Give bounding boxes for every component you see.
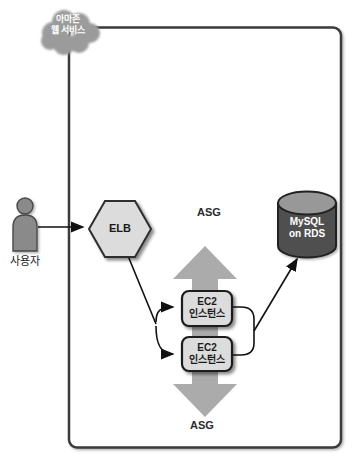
ec2-label-2-line1: EC2 bbox=[182, 342, 232, 354]
rds-label-line2: on RDS bbox=[277, 228, 337, 240]
aws-architecture-diagram: 아마존 웹 서비스 사용자 ELB ASG ASG EC2 인스턴스 EC2 인… bbox=[0, 0, 355, 465]
user-label: 사용자 bbox=[0, 255, 52, 267]
ec2-label-2-line2: 인스턴스 bbox=[182, 354, 232, 366]
cloud-label-line2: 웹 서비스 bbox=[30, 25, 106, 36]
ec2-instance-label-1: EC2 인스턴스 bbox=[182, 296, 232, 320]
rds-label: MySQL on RDS bbox=[277, 216, 337, 240]
user-head-icon bbox=[17, 198, 33, 214]
rds-label-line1: MySQL bbox=[277, 216, 337, 228]
cloud-label: 아마존 웹 서비스 bbox=[30, 14, 106, 36]
user-body-icon bbox=[13, 215, 37, 251]
elb-label: ELB bbox=[95, 222, 145, 234]
rds-cylinder-top bbox=[278, 192, 336, 215]
cloud-label-line1: 아마존 bbox=[30, 14, 106, 25]
asg-label-top: ASG bbox=[184, 206, 234, 218]
ec2-instance-label-2: EC2 인스턴스 bbox=[182, 342, 232, 366]
user-icon bbox=[13, 198, 37, 251]
asg-label-bottom: ASG bbox=[177, 419, 227, 431]
ec2-label-1-line2: 인스턴스 bbox=[182, 308, 232, 320]
ec2-label-1-line1: EC2 bbox=[182, 296, 232, 308]
